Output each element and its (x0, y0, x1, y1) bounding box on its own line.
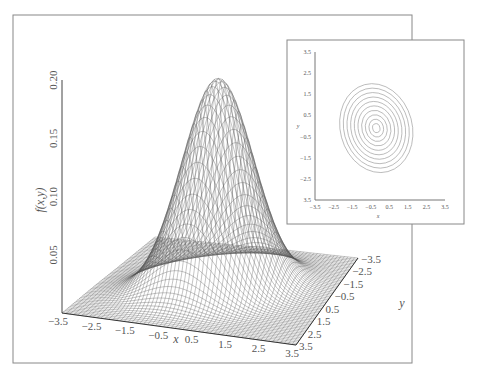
x-axis-label: x (172, 332, 179, 346)
y-tick-label: −0.5 (334, 290, 354, 302)
z-tick-label: 0.10 (47, 186, 59, 206)
x-tick-label: 1.5 (218, 338, 232, 350)
x-tick-label: 3.5 (285, 347, 299, 359)
x-tick-label: −0.5 (148, 329, 168, 341)
z-tick-label: 0.20 (47, 70, 59, 90)
inset-x-tick-label: −2.5 (328, 204, 339, 210)
inset-y-tick-label: 3.5 (304, 197, 312, 203)
x-tick-label: −3.5 (48, 315, 68, 327)
inset-y-tick-label: −1.5 (300, 155, 311, 161)
inset-y-tick-label: 2.5 (304, 70, 312, 76)
x-tick-label: −1.5 (115, 324, 135, 336)
inset-y-tick-label: 3.5 (304, 49, 312, 55)
inset-y-tick-label: 0.5 (304, 112, 312, 118)
inset-x-tick-label: 3.5 (441, 204, 449, 210)
inset-x-tick-label: 1.5 (404, 204, 412, 210)
x-tick-label: 0.5 (185, 333, 199, 345)
y-tick-label: −3.5 (361, 253, 381, 265)
y-tick-label: −1.5 (343, 278, 363, 290)
inset-y-tick-label: −0.5 (300, 134, 311, 140)
y-tick-label: −2.5 (352, 265, 372, 277)
x-tick-label: 2.5 (252, 342, 266, 354)
y-axis-label: y (398, 296, 405, 310)
inset-x-tick-label: −0.5 (365, 204, 376, 210)
inset-x-tick-label: −3.5 (310, 204, 321, 210)
z-tick-label: 0.05 (47, 245, 59, 265)
y-tick-label: 0.5 (326, 303, 340, 315)
y-tick-label: 3.5 (299, 340, 313, 352)
y-tick-label: 1.5 (317, 315, 331, 327)
inset-x-tick-label: 2.5 (423, 204, 431, 210)
inset-x-tick-label: −1.5 (347, 204, 358, 210)
inset-x-tick-label: 0.5 (386, 204, 394, 210)
inset-frame (287, 40, 464, 224)
inset-y-tick-label: −2.5 (300, 176, 311, 182)
z-axis-label: f(x,y) (33, 188, 47, 213)
inset-y-tick-label: 1.5 (304, 91, 312, 97)
z-tick-label: 0.15 (47, 128, 59, 148)
inset-y-axis-label: y (296, 123, 300, 129)
figure: f(x,y) x y 0.050.100.150.20 −3.5−2.5−1.5… (0, 0, 477, 376)
x-tick-label: −2.5 (81, 320, 101, 332)
inset-x-axis-label: x (376, 213, 380, 219)
y-tick-label: 2.5 (308, 328, 322, 340)
figure-canvas: f(x,y) x y 0.050.100.150.20 −3.5−2.5−1.5… (0, 0, 477, 376)
